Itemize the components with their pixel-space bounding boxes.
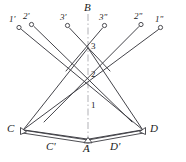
source-marker-1doubleprime xyxy=(158,25,162,29)
vertex-label-D: D xyxy=(150,123,158,134)
ray-D-to-node3 xyxy=(88,48,143,130)
upper-rays-group xyxy=(22,27,159,131)
vertex-label-A: A xyxy=(83,143,90,154)
mirror-face-left-outer xyxy=(22,130,88,140)
source-label-3prime: 3' xyxy=(60,13,66,22)
ray-3prime-to-node3 xyxy=(70,28,111,71)
axis-node-label-1: 1 xyxy=(91,101,96,110)
source-label-2doubleprime: 2" xyxy=(134,12,142,21)
source-label-1prime: 1' xyxy=(9,15,15,24)
vertex-label-Dprime: D' xyxy=(110,141,120,152)
vertex-label-C: C xyxy=(7,123,14,134)
source-marker-3prime xyxy=(65,23,69,27)
axis-node-label-3: 3 xyxy=(91,42,96,51)
optical-ray-diagram: B 1' 2' 3' 3" 2" 1" 3 2 1 C D A C' D' xyxy=(0,0,186,162)
source-marker-2prime xyxy=(29,22,33,26)
ray-2prime-to-Dprime xyxy=(34,27,132,123)
source-label-2prime: 2' xyxy=(23,12,29,21)
axis-label-B: B xyxy=(84,2,91,13)
axis-node-label-2: 2 xyxy=(91,70,96,79)
source-marker-1prime xyxy=(17,25,21,29)
diagram-canvas xyxy=(0,0,186,162)
lower-rays-group xyxy=(24,48,143,139)
ray-3doubleprime-to-node3 xyxy=(66,28,103,71)
source-label-1doubleprime: 1" xyxy=(155,15,163,24)
source-point-markers xyxy=(17,22,163,29)
source-marker-3doubleprime xyxy=(102,23,106,27)
mirror-face-right-outer xyxy=(88,130,144,140)
source-label-3doubleprime: 3" xyxy=(99,13,107,22)
vertex-label-Cprime: C' xyxy=(46,141,56,152)
source-marker-2doubleprime xyxy=(139,22,143,26)
